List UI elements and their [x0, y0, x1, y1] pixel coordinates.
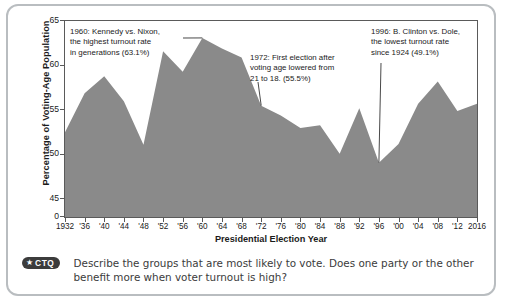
plot-area: 1960: Kennedy vs. Nixon, the highest tur… [64, 20, 478, 218]
x-tick-label: '84 [315, 222, 326, 231]
x-tick-label: '72 [256, 222, 267, 231]
y-tick-label: 60 [33, 59, 59, 69]
y-tick-label: 0 [33, 211, 59, 221]
y-tick-label: 50 [33, 148, 59, 158]
ctq-badge-label: CTQ [35, 259, 54, 267]
star-icon: ★ [26, 259, 33, 267]
ctq-footer: ★ CTQ Describe the groups that are most … [22, 256, 484, 292]
x-tick-label: 2016 [468, 222, 486, 231]
x-axis-title: Presidential Election Year [64, 234, 478, 244]
x-tick-label: '64 [217, 222, 228, 231]
x-axis-label-group: 1932'36'40'44'48'52'56'60'64'68'72'76'80… [64, 222, 478, 234]
annotation-1960: 1960: Kennedy vs. Nixon, the highest tur… [70, 27, 194, 58]
x-tick-label: '04 [413, 222, 424, 231]
x-tick-label: '12 [452, 222, 463, 231]
annotation-1996: 1996: B. Clinton vs. Dole, the lowest tu… [371, 27, 478, 58]
x-tick-label: '88 [334, 222, 345, 231]
ctq-badge: ★ CTQ [22, 257, 60, 269]
x-tick-label: '76 [275, 222, 286, 231]
x-tick-label: 1932 [56, 222, 74, 231]
x-tick-label: '60 [197, 222, 208, 231]
figure-card: Percentage of Voting-Age Population 6560… [6, 4, 496, 296]
x-tick-label: '92 [354, 222, 365, 231]
x-tick-label: '00 [393, 222, 404, 231]
x-tick-label: '68 [236, 222, 247, 231]
x-tick-label: '80 [295, 222, 306, 231]
x-tick-label: '44 [119, 222, 130, 231]
y-tick-label: 45 [33, 193, 59, 203]
ctq-question-text: Describe the groups that are most likely… [73, 256, 484, 284]
x-tick-label: '96 [374, 222, 385, 231]
x-tick-label: '40 [99, 222, 110, 231]
y-tick-label: 55 [33, 104, 59, 114]
leader-line-1972 [258, 82, 261, 106]
x-tick-label: '08 [432, 222, 443, 231]
y-tick-label: 65 [33, 15, 59, 25]
x-tick-label: '52 [158, 222, 169, 231]
annotation-1972: 1972: First election after voting age lo… [250, 53, 382, 84]
voter-turnout-area-chart: Percentage of Voting-Age Population 6560… [8, 6, 494, 246]
x-tick-label: '36 [79, 222, 90, 231]
x-tick-label: '56 [177, 222, 188, 231]
x-tick-label: '48 [138, 222, 149, 231]
